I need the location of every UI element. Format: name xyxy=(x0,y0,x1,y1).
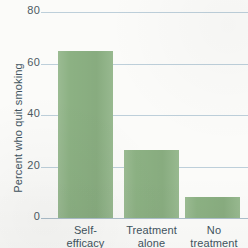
bar-no-treatment xyxy=(185,197,240,218)
xtick-line-1: Treatment xyxy=(118,224,185,237)
bar-self-efficacy xyxy=(58,51,113,218)
ytick-label-80: 80 xyxy=(14,4,40,16)
plot-area: 80 60 40 20 0 Self- efficacy Treatment a… xyxy=(0,0,248,248)
xtick-label-self-efficacy: Self- efficacy xyxy=(55,224,116,248)
xtick-line-2: treatment xyxy=(182,237,246,248)
gridline-80 xyxy=(41,12,248,13)
y-axis-label: Percent who quit smoking xyxy=(12,48,24,208)
xtick-line-1: Self- xyxy=(55,224,116,237)
xtick-label-treatment-alone: Treatment alone xyxy=(118,224,185,248)
xtick-label-no-treatment: No treatment xyxy=(182,224,246,248)
chart-figure: 80 60 40 20 0 Self- efficacy Treatment a… xyxy=(0,0,248,248)
xtick-line-2: alone xyxy=(118,237,185,248)
xtick-line-2: efficacy xyxy=(55,237,116,248)
xtick-line-1: No xyxy=(182,224,246,237)
bar-treatment-alone xyxy=(124,150,179,218)
ytick-label-0: 0 xyxy=(14,210,40,222)
axis-baseline xyxy=(41,218,248,219)
